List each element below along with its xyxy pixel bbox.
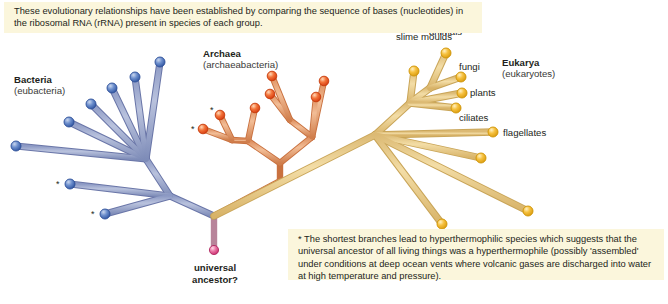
label-eukarya-alt: (eukaryotes) (502, 68, 555, 79)
bacteria-node-3 (86, 99, 96, 109)
eukarya-group (214, 48, 533, 229)
eukarya-upper-stem (375, 103, 410, 135)
eukarya-node-plants (457, 88, 467, 98)
eukarya-node-7 (476, 153, 486, 163)
bacteria-node-1 (11, 141, 21, 151)
archaea-node-3 (250, 103, 260, 113)
eukarya-node-slime-moulds (409, 66, 419, 76)
archaea-left-stem (248, 141, 280, 163)
bottom-bleed-spacer (0, 296, 668, 304)
eukarya-branch-flagellates (375, 132, 493, 135)
eukarya-node-animals (441, 48, 451, 58)
bacteria-branch-hyper-2 (105, 196, 170, 214)
archaea-node-hyper-1 (198, 124, 208, 134)
archaea-sub-left (232, 140, 248, 141)
bacteria-node-2 (64, 117, 74, 127)
archaea-node-hyper-2 (215, 110, 225, 120)
bacteria-stem (170, 196, 214, 216)
label-flagellates: flagellates (503, 127, 546, 138)
archaea-node-6 (311, 92, 321, 102)
label-archaea-name: Archaea (203, 48, 278, 59)
caption-footnote-text: * The shortest branches lead to hyperthe… (298, 233, 656, 283)
label-archaea: Archaea (archaeabacteria) (203, 48, 278, 71)
bacteria-node-5 (130, 72, 140, 82)
eukarya-branch-8 (375, 135, 528, 211)
eukarya-node-flagellates (488, 127, 498, 137)
caption-top-text: These evolutionary relationships have be… (14, 5, 474, 30)
eukarya-node-9 (437, 219, 447, 229)
label-bacteria-alt: (eubacteria) (14, 85, 65, 96)
archaea-right-stem (280, 137, 312, 163)
bacteria-node-hyper-2 (100, 209, 110, 219)
label-universal-ancestor-line1: universal (194, 262, 236, 273)
root-branch-group (209, 216, 218, 255)
asterisk-archaea-1: * (191, 125, 195, 134)
asterisk-bacteria-2: * (91, 210, 95, 219)
caption-top-box: These evolutionary relationships have be… (4, 2, 482, 33)
label-bacteria: Bacteria (eubacteria) (14, 74, 65, 97)
bacteria-node-hyper-1 (65, 179, 75, 189)
label-archaea-alt: (archaeabacteria) (203, 59, 278, 70)
caption-footnote-box: * The shortest branches lead to hyperthe… (288, 229, 664, 280)
label-ciliates: ciliates (459, 112, 488, 123)
archaea-sub-right (290, 120, 312, 137)
label-universal-ancestor: universal ancestor? (176, 262, 254, 285)
phylogenetic-tree-figure: Bacteria (eubacteria) Archaea (archaeaba… (0, 0, 668, 304)
root-node-universal-ancestor (209, 245, 218, 254)
archaea-node-4 (265, 89, 275, 99)
label-universal-ancestor-line2: ancestor? (192, 274, 238, 285)
asterisk-archaea-2: * (210, 106, 214, 115)
bacteria-branch-hyper-1 (70, 184, 170, 196)
eukarya-node-8 (523, 206, 533, 216)
archaea-tip-nodes (198, 71, 329, 134)
eukarya-node-fungi (456, 72, 466, 82)
bacteria-node-4 (107, 83, 117, 93)
bacteria-node-6 (155, 57, 165, 67)
label-fungi: fungi (459, 61, 480, 72)
label-eukarya-name: Eukarya (502, 57, 555, 68)
bacteria-branch-6 (146, 62, 160, 159)
label-eukarya: Eukarya (eukaryotes) (502, 57, 555, 80)
label-bacteria-name: Bacteria (14, 74, 65, 85)
archaea-node-7 (319, 76, 329, 86)
archaea-node-5 (267, 71, 277, 81)
asterisk-bacteria-1: * (56, 180, 60, 189)
label-plants: plants (470, 87, 496, 98)
